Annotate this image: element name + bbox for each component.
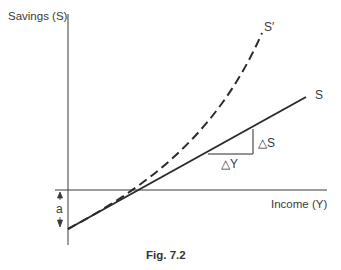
- x-axis-label: Income (Y): [271, 199, 327, 211]
- y-axis-label: Savings (S): [8, 11, 67, 23]
- slope-triangle: [208, 129, 253, 154]
- intercept-label: a: [56, 203, 63, 215]
- delta-y-label: △Y: [221, 158, 238, 170]
- savings-curve-s-prime: [68, 33, 262, 229]
- delta-s-label: △S: [258, 137, 275, 149]
- curve-label-s: S: [315, 89, 323, 101]
- savings-income-diagram: [0, 0, 341, 270]
- curve-label-s-prime: S′: [264, 21, 274, 33]
- figure-caption: Fig. 7.2: [146, 250, 186, 262]
